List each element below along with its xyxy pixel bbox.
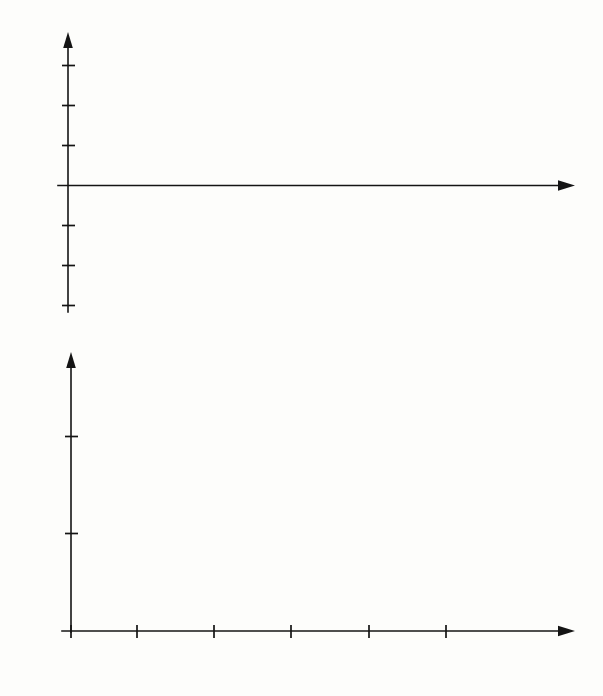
figure-root (0, 0, 603, 696)
x-axis-arrow-icon (558, 626, 575, 636)
u-axis-arrow-icon (63, 32, 73, 48)
t-axis-arrow-icon (558, 180, 575, 190)
y-axis-arrow-icon (66, 352, 76, 368)
bottom-panel-system-response (62, 352, 575, 638)
top-panel-control-signal (58, 32, 575, 312)
figure-canvas (0, 0, 603, 696)
